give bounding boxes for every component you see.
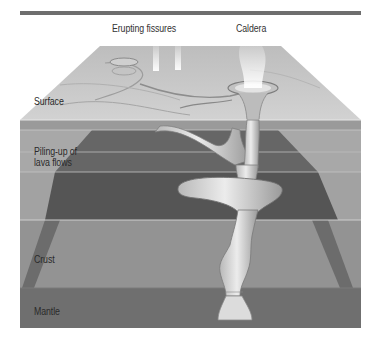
label-lava-flows-line2: lava flows (34, 157, 72, 168)
surface-layer (20, 46, 361, 120)
label-mantle: Mantle (34, 306, 60, 317)
label-crust: Crust (34, 254, 55, 265)
label-surface: Surface (34, 96, 64, 107)
label-lava-flows-line1: Piling-up of (34, 146, 77, 157)
volcano-cross-section-diagram (0, 0, 373, 346)
